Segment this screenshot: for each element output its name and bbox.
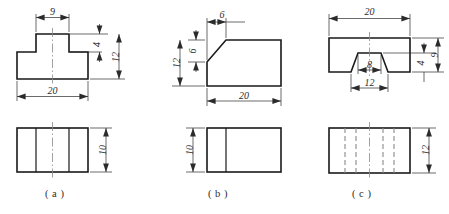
fig-b-dim-6v: 6 [187, 49, 198, 54]
fig-b-dimensions [172, 18, 281, 106]
fig-a-dim-12: 12 [110, 52, 121, 62]
fig-a-dim-10: 10 [97, 145, 108, 155]
fig-a-dim-9: 9 [50, 6, 55, 17]
fig-c-dim-4: 4 [415, 61, 426, 66]
figure-label-b: ( b ) [208, 188, 228, 199]
drawing-sheet: 9 20 4 12 10 [0, 0, 449, 214]
fig-b-dim-10: 10 [184, 145, 195, 155]
fig-b-dim-20: 20 [239, 90, 249, 101]
fig-c-dim-12-depth: 12 [420, 145, 431, 155]
fig-a-dimensions [17, 14, 125, 101]
fig-c-dim-9: 9 [429, 53, 440, 58]
fig-b-front-outline [207, 40, 281, 86]
fig-b-dim-6h: 6 [220, 9, 225, 20]
fig-c-dimensions [329, 14, 444, 92]
fig-a-dim-4: 4 [91, 42, 102, 47]
fig-b-top-outline [207, 128, 281, 172]
fig-c-dim-8: 8 [367, 59, 372, 70]
figure-label-c: ( c ) [352, 188, 371, 199]
figure-label-a: ( a ) [45, 188, 64, 199]
fig-c-dim-12: 12 [365, 77, 375, 88]
engineering-drawing-canvas: 9 20 4 12 10 [0, 0, 449, 214]
fig-b-dim-12: 12 [171, 58, 182, 68]
fig-a-dim-20: 20 [48, 85, 58, 96]
fig-c-dim-20: 20 [365, 6, 375, 17]
